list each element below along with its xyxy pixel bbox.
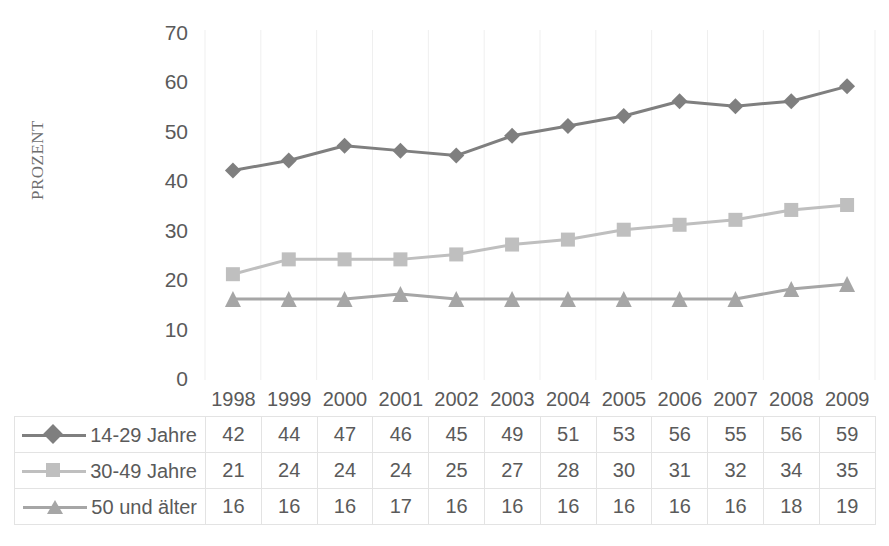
y-tick-label-10: 10: [120, 318, 188, 339]
table-row: 14-29 Jahre424447464549515356555659: [15, 417, 876, 453]
table-row: 50 und älter161616171616161616161819: [15, 489, 876, 525]
data-point-marker: [448, 148, 464, 164]
data-table: 1998199920002001200220032004200520062007…: [14, 383, 876, 525]
table-cell: 32: [708, 453, 764, 489]
table-cell: 44: [261, 417, 317, 453]
y-tick-label-20: 20: [120, 269, 188, 290]
y-axis-title: PROZENT: [28, 60, 48, 260]
table-cell: 49: [484, 417, 540, 453]
table-header-year-1999: 1999: [261, 383, 317, 417]
data-point-marker: [672, 93, 688, 109]
table-body: 14-29 Jahre42444746454951535655565930-49…: [15, 417, 876, 525]
data-point-marker: [392, 143, 408, 159]
table-cell: 53: [596, 417, 652, 453]
table-cell: 35: [819, 453, 875, 489]
legend-key-triangle-icon: [23, 497, 87, 517]
table-cell: 34: [763, 453, 819, 489]
data-point-marker: [783, 93, 799, 109]
table-header-year-2005: 2005: [596, 383, 652, 417]
data-point-marker: [338, 252, 352, 266]
data-point-marker: [449, 247, 463, 261]
table-cell: 16: [206, 489, 262, 525]
table-cell: 18: [763, 489, 819, 525]
table-cell: 24: [373, 453, 429, 489]
table-cell: 56: [652, 417, 708, 453]
legend-entry-3[interactable]: 50 und älter: [15, 489, 206, 525]
table-cell: 31: [652, 453, 708, 489]
data-point-marker: [617, 223, 631, 237]
table-cell: 47: [317, 417, 373, 453]
gridlines: [205, 30, 875, 380]
data-point-marker: [505, 238, 519, 252]
table-cell: 16: [596, 489, 652, 525]
table-corner-cell: [15, 383, 206, 417]
data-point-marker: [282, 252, 296, 266]
data-point-marker: [673, 218, 687, 232]
plot-svg: [205, 20, 875, 380]
y-tick-label-60: 60: [120, 71, 188, 92]
data-point-marker: [561, 233, 575, 247]
table-cell: 30: [596, 453, 652, 489]
legend-key-square-icon: [22, 461, 86, 481]
data-point-marker: [616, 108, 632, 124]
y-axis-tick-labels: 706050403020100: [120, 0, 188, 400]
table-header-year-2001: 2001: [373, 383, 429, 417]
y-tick-label-50: 50: [120, 120, 188, 141]
table-cell: 21: [206, 453, 262, 489]
data-point-marker: [784, 203, 798, 217]
data-point-marker: [839, 78, 855, 94]
table-cell: 56: [763, 417, 819, 453]
table-cell: 19: [819, 489, 875, 525]
square-marker-icon: [46, 463, 60, 477]
table-header-year-2006: 2006: [652, 383, 708, 417]
table-header-year-2007: 2007: [708, 383, 764, 417]
legend-key-diamond-icon: [22, 425, 86, 445]
table-cell: 24: [317, 453, 373, 489]
table-cell: 59: [819, 417, 875, 453]
table-header-year-1998: 1998: [206, 383, 262, 417]
data-point-marker: [840, 198, 854, 212]
table-cell: 16: [261, 489, 317, 525]
table-cell: 16: [317, 489, 373, 525]
table-header-year-2000: 2000: [317, 383, 373, 417]
table-header-row: 1998199920002001200220032004200520062007…: [15, 383, 876, 417]
data-point-marker: [393, 252, 407, 266]
legend-label-1: 14-29 Jahre: [90, 425, 197, 445]
table-cell: 17: [373, 489, 429, 525]
table-cell: 16: [429, 489, 485, 525]
table-cell: 16: [484, 489, 540, 525]
table-header-year-2003: 2003: [484, 383, 540, 417]
triangle-marker-icon: [47, 500, 63, 514]
table-cell: 42: [206, 417, 262, 453]
table-row: 30-49 Jahre212424242527283031323435: [15, 453, 876, 489]
data-point-marker: [728, 213, 742, 227]
table-cell: 16: [540, 489, 596, 525]
table-cell: 28: [540, 453, 596, 489]
legend-label-2: 30-49 Jahre: [90, 461, 197, 481]
table-cell: 25: [429, 453, 485, 489]
y-tick-label-30: 30: [120, 219, 188, 240]
data-point-marker: [504, 128, 520, 144]
table-cell: 45: [429, 417, 485, 453]
table-cell: 46: [373, 417, 429, 453]
table-cell: 51: [540, 417, 596, 453]
table-cell: 55: [708, 417, 764, 453]
data-point-marker: [281, 153, 297, 169]
table-header-year-2004: 2004: [540, 383, 596, 417]
plot-area: [205, 20, 875, 380]
chart-root: PROZENT 706050403020100 1998199920002001…: [0, 0, 889, 546]
table-cell: 24: [261, 453, 317, 489]
table-cell: 16: [708, 489, 764, 525]
diamond-marker-icon: [43, 424, 63, 444]
y-tick-label-40: 40: [120, 170, 188, 191]
table-cell: 27: [484, 453, 540, 489]
legend-entry-2[interactable]: 30-49 Jahre: [15, 453, 206, 489]
data-point-marker: [560, 118, 576, 134]
data-point-marker: [727, 98, 743, 114]
table-header-year-2009: 2009: [819, 383, 875, 417]
legend-label-3: 50 und älter: [91, 497, 197, 517]
data-point-marker: [226, 267, 240, 281]
legend-entry-1[interactable]: 14-29 Jahre: [15, 417, 206, 453]
data-point-marker: [225, 162, 241, 178]
y-tick-label-70: 70: [120, 22, 188, 43]
